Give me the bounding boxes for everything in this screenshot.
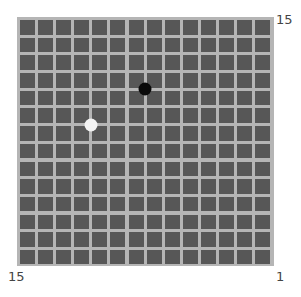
board-cell: [92, 250, 107, 265]
board-cell: [38, 232, 53, 247]
board-cell: [129, 232, 144, 247]
board-cell: [165, 144, 180, 159]
board-cell: [219, 197, 234, 212]
board-cell: [183, 91, 198, 106]
board-cell: [56, 197, 71, 212]
board-cell: [74, 162, 89, 177]
board-cell: [201, 250, 216, 265]
board-cell: [165, 20, 180, 35]
board-cell: [237, 73, 252, 88]
board-cell: [147, 126, 162, 141]
board-cell: [110, 20, 125, 35]
board-cell: [38, 126, 53, 141]
board-cell: [183, 250, 198, 265]
board-cell: [56, 179, 71, 194]
board-cell: [92, 55, 107, 70]
board-cell: [92, 162, 107, 177]
board-cell: [237, 197, 252, 212]
board-cell: [129, 215, 144, 230]
board-cell: [255, 162, 270, 177]
board-cell: [56, 108, 71, 123]
board-cell: [110, 179, 125, 194]
board-cell: [183, 144, 198, 159]
board-cell: [74, 197, 89, 212]
board-cell: [56, 126, 71, 141]
board-cell: [255, 179, 270, 194]
board-cell: [255, 126, 270, 141]
board-cell: [237, 179, 252, 194]
board-cell: [110, 108, 125, 123]
board-cell: [20, 108, 35, 123]
board-cell: [74, 250, 89, 265]
board-cell: [237, 215, 252, 230]
board-cell: [110, 144, 125, 159]
board-cell: [183, 215, 198, 230]
board-cell: [20, 215, 35, 230]
board-grid: [20, 20, 270, 264]
board-cell: [147, 215, 162, 230]
board-cell: [20, 162, 35, 177]
board-cell: [92, 179, 107, 194]
board-cell: [219, 232, 234, 247]
board-cell: [56, 250, 71, 265]
board-cell: [255, 232, 270, 247]
board-cell: [237, 250, 252, 265]
board-cell: [237, 108, 252, 123]
board-cell: [255, 38, 270, 53]
white-stone[interactable]: [85, 118, 98, 131]
board-cell: [147, 20, 162, 35]
board-cell: [92, 91, 107, 106]
board-cell: [38, 55, 53, 70]
board-cell: [74, 144, 89, 159]
board-cell: [237, 20, 252, 35]
board-cell: [147, 55, 162, 70]
board-cell: [201, 91, 216, 106]
board-cell: [20, 20, 35, 35]
black-stone[interactable]: [139, 83, 152, 96]
coordinate-label-top-right: 15: [276, 13, 293, 26]
board-cell: [56, 215, 71, 230]
board-cell: [255, 108, 270, 123]
board-cell: [219, 91, 234, 106]
board-cell: [129, 126, 144, 141]
board-cell: [237, 126, 252, 141]
board-cell: [110, 73, 125, 88]
board-cell: [38, 38, 53, 53]
board-cell: [110, 55, 125, 70]
board-cell: [255, 144, 270, 159]
board-cell: [38, 73, 53, 88]
board-cell: [219, 144, 234, 159]
board-cell: [110, 215, 125, 230]
board-cell: [147, 232, 162, 247]
board-cell: [183, 197, 198, 212]
board-cell: [38, 215, 53, 230]
board-cell: [219, 108, 234, 123]
board-cell: [183, 232, 198, 247]
board-cell: [92, 38, 107, 53]
board-cell: [56, 38, 71, 53]
coordinate-label-bottom-right: 1: [276, 270, 284, 283]
board-cell: [201, 144, 216, 159]
board-cell: [38, 179, 53, 194]
board-cell: [56, 91, 71, 106]
board-cell: [147, 144, 162, 159]
board-cell: [237, 55, 252, 70]
board-cell: [56, 162, 71, 177]
board-cell: [237, 38, 252, 53]
board-cell: [129, 55, 144, 70]
board-cell: [20, 126, 35, 141]
board-cell: [219, 55, 234, 70]
board-cell: [147, 162, 162, 177]
board-cell: [237, 162, 252, 177]
board-cell: [129, 144, 144, 159]
board-cell: [201, 162, 216, 177]
board-cell: [92, 20, 107, 35]
board-cell: [165, 126, 180, 141]
go-board[interactable]: [17, 17, 274, 266]
board-cell: [165, 55, 180, 70]
board-cell: [74, 38, 89, 53]
board-cell: [110, 232, 125, 247]
board-cell: [147, 250, 162, 265]
board-cell: [74, 232, 89, 247]
board-cell: [165, 215, 180, 230]
